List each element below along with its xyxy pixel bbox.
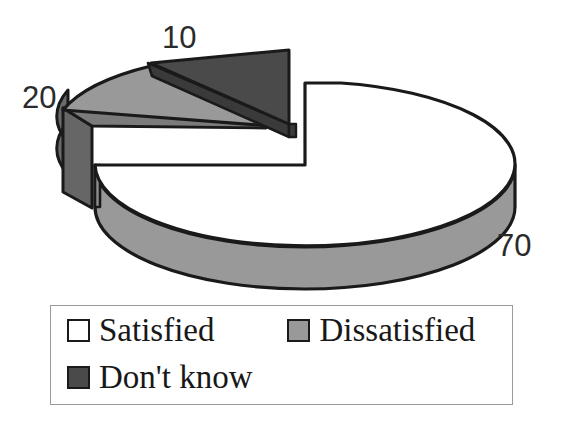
- legend-swatch-dissatisfied: [287, 319, 310, 342]
- legend-row: Don't know: [51, 359, 512, 396]
- legend-item-dont-know[interactable]: Don't know: [67, 359, 253, 396]
- legend-swatch-satisfied: [67, 319, 90, 342]
- pie-chart-graphic: [0, 0, 563, 300]
- chart-legend: Satisfied Dissatisfied Don't know: [50, 305, 513, 405]
- slice-value-label-dissatisfied: 20: [22, 82, 56, 113]
- legend-item-satisfied[interactable]: Satisfied: [67, 312, 214, 349]
- pie-chart-figure: 10 20 70 Satisfied Dissatisfied Don't kn…: [0, 0, 563, 440]
- legend-item-dissatisfied[interactable]: Dissatisfied: [287, 312, 475, 349]
- legend-label-satisfied: Satisfied: [99, 312, 214, 349]
- dont-know-right-wall: [289, 124, 296, 137]
- slice-value-label-dont-know: 10: [162, 22, 196, 53]
- legend-label-dissatisfied: Dissatisfied: [319, 312, 475, 349]
- legend-label-dont-know: Don't know: [99, 359, 253, 396]
- slice-value-label-satisfied: 70: [497, 230, 531, 261]
- legend-swatch-dont-know: [67, 366, 90, 389]
- legend-row: Satisfied Dissatisfied: [51, 312, 512, 349]
